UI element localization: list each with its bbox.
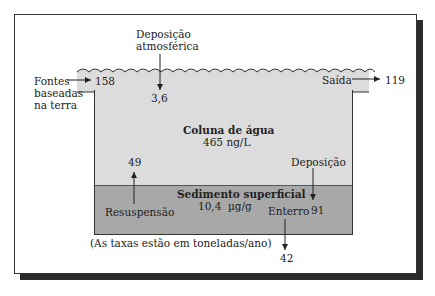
water-column-value: 465 ng/L — [203, 136, 250, 148]
arrows-and-waves — [0, 0, 435, 296]
outflow-label: Saída — [322, 74, 352, 86]
sediment-title: Sedimento superficial — [177, 188, 305, 200]
resuspension-value: 49 — [128, 156, 141, 168]
sediment-unit: µg/g — [228, 200, 252, 212]
deposition-value: 91 — [311, 204, 324, 216]
sediment-value: 10,4 — [198, 200, 221, 212]
water-column-title: Coluna de água — [183, 124, 274, 136]
resuspension-label: Resuspensão — [105, 206, 174, 218]
land-sources-label-3: na terra — [34, 99, 77, 111]
atmospheric-label-2: atmosférica — [136, 40, 199, 52]
wave-icon — [77, 69, 375, 72]
burial-value: 42 — [280, 252, 293, 264]
outflow-value: 119 — [385, 74, 405, 86]
land-sources-label-2: baseadas — [34, 87, 83, 99]
burial-label: Enterro — [268, 205, 309, 217]
atmospheric-value: 3,6 — [151, 92, 168, 104]
atmospheric-label-1: Deposição — [136, 28, 191, 40]
units-caption: (As taxas estão em toneladas/ano) — [90, 237, 272, 249]
land-sources-label-1: Fontes — [34, 75, 70, 87]
land-sources-value: 158 — [95, 75, 115, 87]
deposition-label: Deposição — [291, 156, 346, 168]
